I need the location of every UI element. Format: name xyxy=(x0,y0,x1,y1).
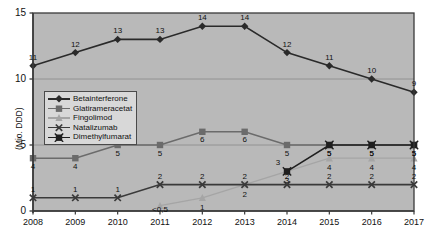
diamond-marker-icon xyxy=(48,94,70,103)
data-point-label: 5 xyxy=(103,149,133,158)
data-point-label: 6 xyxy=(230,135,260,144)
data-point-label: 10 xyxy=(357,66,387,75)
data-point-label: 13 xyxy=(145,26,175,35)
data-point-label: 5 xyxy=(399,149,428,158)
data-point-label: 11 xyxy=(18,53,48,62)
x-tick-label: 2010 xyxy=(98,217,138,227)
legend-label: Glatirameracetat xyxy=(70,104,132,114)
data-point-label: 2 xyxy=(230,190,260,199)
legend-label: Dimethylfumarat xyxy=(70,132,131,142)
legend-item-natalizumab[interactable]: Natalizumab xyxy=(48,123,132,133)
square-marker-icon xyxy=(48,104,70,113)
legend-item-glatirameracetat[interactable]: Glatirameracetat xyxy=(48,104,132,114)
x-tick-label: 2015 xyxy=(309,217,349,227)
legend-label: Fingolimod xyxy=(70,113,112,123)
legend-item-dimethylfumarat[interactable]: Dimethylfumarat xyxy=(48,132,132,142)
triangle-marker-icon xyxy=(48,113,70,122)
x-tick-label: 2009 xyxy=(55,217,95,227)
data-point-label: 9 xyxy=(399,79,428,88)
data-point-label: 1 xyxy=(187,203,217,212)
data-point-label: 5 xyxy=(272,149,302,158)
x-tick-label: 2016 xyxy=(352,217,392,227)
data-point-label: 4 xyxy=(18,162,48,171)
data-point-label: 2 xyxy=(187,172,217,181)
data-point-label: 14 xyxy=(230,13,260,22)
data-point-label: 5 xyxy=(357,149,387,158)
x-tick-label: 2013 xyxy=(225,217,265,227)
data-point-label: 3 xyxy=(263,158,293,167)
data-point-label: 4 xyxy=(60,162,90,171)
x-tick-label: 2017 xyxy=(394,217,428,227)
data-point-label: 14 xyxy=(187,13,217,22)
data-point-label: 2 xyxy=(145,172,175,181)
x-tick-label: 2008 xyxy=(13,217,53,227)
data-point-label: 13 xyxy=(103,26,133,35)
square-x-marker-icon xyxy=(48,133,70,142)
chart-legend: BetainterferoneGlatirameracetatFingolimo… xyxy=(44,91,137,145)
y-tick-label: 0 xyxy=(4,205,26,216)
data-point-label: 11 xyxy=(314,53,344,62)
y-tick-label: 10 xyxy=(4,73,26,84)
data-point-label: 2 xyxy=(230,172,260,181)
legend-label: Betainterferone xyxy=(70,94,128,104)
data-point-label: 2 xyxy=(272,172,302,181)
x-marker-icon xyxy=(48,123,70,132)
data-point-label: 5 xyxy=(314,149,344,158)
data-point-label: 6 xyxy=(187,135,217,144)
x-tick-label: 2011 xyxy=(140,217,180,227)
data-point-label: 1 xyxy=(18,185,48,194)
y-tick-label: 15 xyxy=(4,7,26,18)
data-point-label: 2 xyxy=(399,172,428,181)
data-point-label: 1 xyxy=(60,185,90,194)
data-point-label: <0,5 xyxy=(145,205,175,214)
y-tick-label: 5 xyxy=(4,139,26,150)
data-point-label: 2 xyxy=(357,172,387,181)
x-tick-label: 2012 xyxy=(182,217,222,227)
legend-item-fingolimod[interactable]: Fingolimod xyxy=(48,113,132,123)
data-point-label: 5 xyxy=(145,149,175,158)
chart-container: (Mio. DDD) 051015 2008200920102011201220… xyxy=(0,0,428,244)
legend-label: Natalizumab xyxy=(70,123,117,133)
data-point-label: 12 xyxy=(60,40,90,49)
data-point-label: 1 xyxy=(103,185,133,194)
data-point-label: 12 xyxy=(272,40,302,49)
legend-item-betainterferone[interactable]: Betainterferone xyxy=(48,94,132,104)
data-point-label: 2 xyxy=(314,172,344,181)
x-tick-label: 2014 xyxy=(267,217,307,227)
